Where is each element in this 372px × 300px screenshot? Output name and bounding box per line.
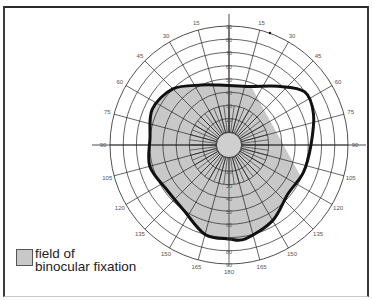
legend-line-2: binocular fixation bbox=[35, 260, 136, 273]
svg-text:30: 30 bbox=[226, 103, 232, 109]
svg-text:120: 120 bbox=[115, 205, 126, 211]
svg-text:90: 90 bbox=[226, 262, 232, 268]
svg-text:50: 50 bbox=[226, 209, 232, 215]
svg-text:50: 50 bbox=[226, 77, 232, 83]
legend: field of binocular fixation bbox=[16, 247, 136, 273]
svg-text:90: 90 bbox=[226, 24, 232, 30]
svg-text:135: 135 bbox=[135, 231, 146, 237]
svg-text:105: 105 bbox=[346, 175, 357, 181]
svg-text:70: 70 bbox=[226, 50, 232, 56]
svg-text:40: 40 bbox=[226, 196, 232, 202]
svg-text:180: 180 bbox=[224, 269, 235, 275]
svg-text:30: 30 bbox=[226, 183, 232, 189]
svg-text:45: 45 bbox=[315, 53, 322, 59]
svg-text:20: 20 bbox=[226, 117, 232, 123]
svg-text:75: 75 bbox=[347, 109, 354, 115]
svg-text:165: 165 bbox=[257, 264, 268, 270]
svg-text:30: 30 bbox=[289, 33, 296, 39]
svg-text:90: 90 bbox=[100, 142, 107, 148]
svg-text:70: 70 bbox=[226, 236, 232, 242]
svg-text:20: 20 bbox=[226, 169, 232, 175]
svg-text:80: 80 bbox=[226, 249, 232, 255]
svg-text:105: 105 bbox=[102, 175, 113, 181]
svg-text:75: 75 bbox=[104, 109, 111, 115]
svg-text:135: 135 bbox=[313, 231, 324, 237]
svg-text:90: 90 bbox=[352, 142, 359, 148]
svg-text:60: 60 bbox=[226, 222, 232, 228]
svg-text:60: 60 bbox=[226, 64, 232, 70]
svg-text:120: 120 bbox=[333, 205, 344, 211]
svg-text:60: 60 bbox=[117, 79, 124, 85]
svg-text:45: 45 bbox=[137, 53, 144, 59]
svg-text:80: 80 bbox=[226, 37, 232, 43]
legend-swatch bbox=[16, 249, 33, 266]
svg-text:60: 60 bbox=[335, 79, 342, 85]
svg-text:150: 150 bbox=[287, 251, 298, 257]
svg-text:15: 15 bbox=[258, 20, 265, 26]
svg-text:165: 165 bbox=[191, 264, 202, 270]
svg-text:40: 40 bbox=[226, 90, 232, 96]
svg-text:15: 15 bbox=[193, 20, 200, 26]
svg-text:150: 150 bbox=[161, 251, 172, 257]
svg-text:30: 30 bbox=[163, 33, 170, 39]
legend-label: field of binocular fixation bbox=[35, 247, 136, 273]
